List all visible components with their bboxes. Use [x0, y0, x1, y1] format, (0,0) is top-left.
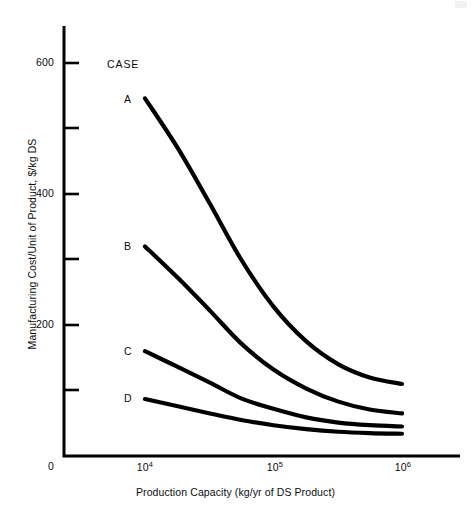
y-tick-label-0: 0: [14, 460, 54, 472]
y-axis-title: Manufacturing Cost/Unit of Product, $/kg…: [26, 129, 38, 359]
x-tick-label-1e4: 104: [115, 461, 175, 473]
series-line-c: [145, 351, 402, 426]
series-line-b: [145, 246, 402, 413]
series-label-d: D: [124, 392, 132, 404]
y-tick-label-600: 600: [14, 56, 54, 68]
series-line-a: [145, 98, 402, 384]
x-axis-title: Production Capacity (kg/yr of DS Product…: [0, 486, 471, 498]
x-tick-label-1e5: 105: [245, 461, 305, 473]
figure-chart-manufacturing-cost: CASE A B C D 600 400 200 0 104 105 106 M…: [0, 0, 471, 512]
series-label-c: C: [124, 345, 132, 357]
x-tick-label-1e6: 106: [373, 461, 433, 473]
plot-area: [0, 0, 471, 512]
legend-heading: CASE: [107, 58, 139, 70]
y-axis-ticks: [64, 63, 79, 390]
series-label-a: A: [124, 93, 131, 105]
series-line-d: [145, 399, 402, 434]
series-label-b: B: [124, 240, 131, 252]
data-series: [145, 98, 402, 433]
